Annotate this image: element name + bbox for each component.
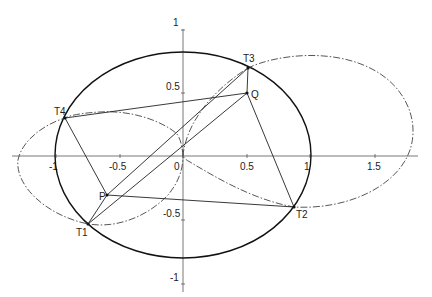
label-Q: Q: [251, 89, 259, 100]
y-tick-label: -1: [170, 272, 179, 283]
label-T4: T4: [54, 106, 66, 117]
point-P: [105, 193, 108, 196]
pedal-curve-right: [183, 55, 413, 207]
segment-T3-Q: [247, 68, 248, 93]
pedal-curve-left: [18, 112, 183, 225]
point-T3: [246, 66, 249, 69]
label-T3: T3: [243, 53, 255, 64]
label-T2: T2: [296, 209, 308, 220]
segment-Q-T2: [247, 93, 294, 207]
y-tick-label: 0.5: [166, 81, 180, 92]
x-tick-label: -0.5: [109, 161, 127, 172]
y-tick-label: 1: [173, 17, 179, 28]
segment-T4-P: [65, 118, 107, 195]
label-P: P: [99, 191, 106, 202]
segment-P-T2: [107, 195, 294, 207]
x-tick-label: 0.5: [240, 161, 254, 172]
point-Q: [245, 91, 248, 94]
segment-T4-Q: [65, 93, 247, 118]
geometry-diagram: -1 -0.5 0 0.5 1 1.5 1 0.5 -0.5 -1 T1 T2 …: [0, 0, 432, 297]
point-T1: [86, 222, 89, 225]
x-tick-label: 1.5: [367, 161, 381, 172]
segment-T1-Q: [88, 93, 247, 224]
label-T1: T1: [76, 227, 88, 238]
x-tick-label: 0: [174, 161, 180, 172]
y-tick-label: -0.5: [163, 208, 181, 219]
